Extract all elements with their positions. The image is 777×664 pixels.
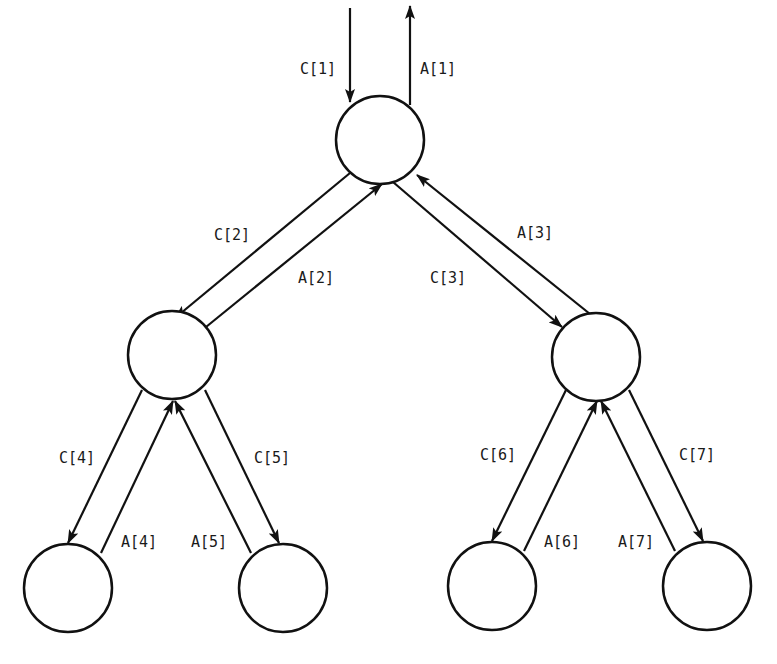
edge-a7-arrow bbox=[601, 401, 675, 551]
edge-c2-arrow bbox=[175, 173, 350, 318]
edge-c7-arrow bbox=[629, 390, 703, 541]
label-a2: A[2] bbox=[298, 269, 334, 287]
label-c2: C[2] bbox=[214, 226, 250, 244]
node-leaf-4 bbox=[663, 542, 751, 630]
edge-a4-arrow bbox=[101, 401, 173, 553]
edge-a5-arrow bbox=[175, 401, 251, 553]
node-left-mid bbox=[128, 311, 216, 399]
label-a7: A[7] bbox=[618, 533, 654, 551]
label-c5: C[5] bbox=[254, 449, 290, 467]
edge-a6-arrow bbox=[524, 401, 597, 551]
node-leaf-1 bbox=[24, 544, 112, 632]
node-leaf-3 bbox=[448, 542, 536, 630]
edge-c3-arrow bbox=[393, 182, 562, 327]
node-root bbox=[336, 96, 424, 184]
label-c6: C[6] bbox=[480, 446, 516, 464]
edge-c6-arrow bbox=[492, 390, 566, 541]
node-leaf-2 bbox=[239, 544, 327, 632]
node-right-mid bbox=[552, 313, 640, 401]
label-c7: C[7] bbox=[679, 446, 715, 464]
label-a3: A[3] bbox=[517, 224, 553, 242]
label-c1: C[1] bbox=[300, 60, 336, 78]
label-a5: A[5] bbox=[191, 533, 227, 551]
label-c3: C[3] bbox=[430, 269, 466, 287]
label-a6: A[6] bbox=[544, 533, 580, 551]
tree-diagram: C[1] A[1] C[2] A[2] A[3] C[3] C[4] A[4] … bbox=[0, 0, 777, 664]
label-a4: A[4] bbox=[121, 533, 157, 551]
edge-a3-arrow bbox=[417, 175, 590, 314]
label-c4: C[4] bbox=[59, 449, 95, 467]
label-a1: A[1] bbox=[420, 60, 456, 78]
edge-a2-arrow bbox=[206, 184, 382, 327]
